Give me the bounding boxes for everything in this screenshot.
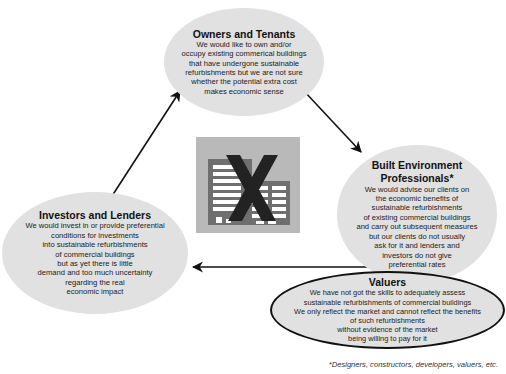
owners-title: Owners and Tenants [193,28,296,40]
owners-body: We would like to own and/or occupy exist… [182,40,307,96]
valuers-title: Valuers [369,276,406,288]
footnote: *Designers, constructors, developers, va… [329,360,498,369]
built-environment-professionals-node: Built Environment Professionals* We woul… [337,145,497,283]
valuers-node: Valuers We have not got the skills to ad… [270,271,505,349]
investors-title: Investors and Lenders [39,209,151,221]
built-title: Built Environment Professionals* [372,159,462,185]
investors-and-lenders-node: Investors and Lenders We would invest in… [2,192,188,314]
vicious-circle-diagram: Owners and Tenants We would like to own … [0,0,506,374]
arrow-investors-to-owners [112,91,180,196]
investors-body: We would invest in or provide preferenti… [25,221,164,296]
arrow-owners-to-built [304,91,361,152]
valuers-body: We have not got the skills to adequately… [294,288,481,343]
owners-and-tenants-node: Owners and Tenants We would like to own … [164,8,324,116]
built-body: We would advise our clients on the econo… [356,185,477,270]
crossed-out-buildings-icon [196,137,300,233]
